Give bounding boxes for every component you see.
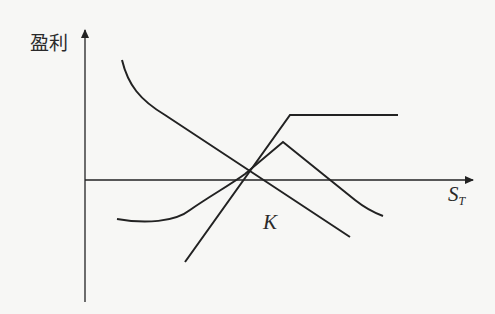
y-axis-label: 盈利: [30, 28, 68, 55]
payoff-diagram: [0, 0, 495, 314]
convex-decreasing-curve: [122, 60, 350, 237]
x-axis-label: ST: [448, 182, 465, 209]
strike-label: K: [263, 210, 277, 235]
capped-line: [185, 115, 398, 262]
hump-curve: [117, 142, 383, 222]
